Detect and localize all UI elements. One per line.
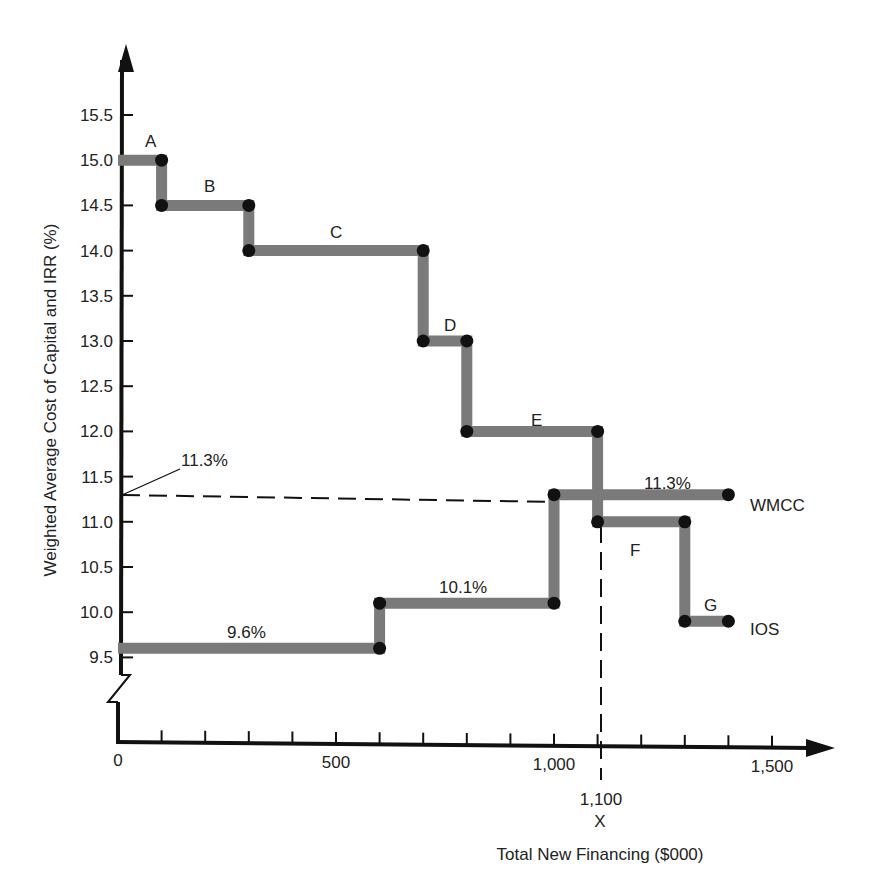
ios-step-dot (591, 425, 604, 438)
y-tick-label: 13.0 (80, 332, 113, 351)
series-layer (118, 160, 728, 648)
wmcc-seg-label-3: 11.3% (644, 474, 691, 493)
ios-seg-label-a: A (145, 132, 157, 151)
y-tick-label: 14.5 (80, 196, 113, 215)
ios-step-dot (417, 335, 430, 348)
y-tick-label: 10.5 (80, 558, 113, 577)
wmcc-step-dot (548, 597, 561, 610)
wmcc-seg-label-1: 9.6% (227, 623, 266, 642)
y-axis-ticks: 15.515.014.514.013.513.012.512.011.511.0… (80, 106, 133, 667)
ios-seg-label-d: D (444, 316, 456, 335)
chart: 15.515.014.514.013.513.012.512.011.511.0… (0, 0, 869, 891)
x-axis-title: Total New Financing ($000) (497, 845, 704, 864)
wmcc-step-dot (373, 642, 386, 655)
x-tick-label: 500 (322, 753, 350, 772)
y-tick-label: 10.0 (80, 603, 113, 622)
ios-seg-label-b: B (204, 177, 215, 196)
ios-step-dot (460, 335, 473, 348)
wmcc-seg-label-2: 10.1% (439, 578, 487, 597)
wmcc-step-dot (548, 488, 561, 501)
x-axis-ticks: 05001,0001,500 (113, 730, 793, 775)
callout-label: 11.3% (181, 451, 228, 470)
y-axis-title: Weighted Average Cost of Capital and IRR… (41, 224, 60, 577)
x-tick-label: 1,500 (751, 757, 794, 776)
y-tick-label: 15.5 (80, 106, 113, 125)
y-tick-label: 11.0 (81, 513, 113, 532)
x-marker-symbol: X (594, 812, 605, 831)
y-tick-label: 11.5 (81, 468, 113, 487)
ios-seg-label-e: E (531, 411, 542, 430)
wmcc-series-label: WMCC (750, 496, 805, 515)
wmcc-step-dot (373, 597, 386, 610)
ios-seg-label-f: F (630, 541, 640, 560)
y-tick-label: 12.0 (80, 422, 113, 441)
ios-step-dot (460, 425, 473, 438)
ios-step-dot (678, 615, 691, 628)
axis-break-icon (108, 675, 130, 702)
ios-seg-label-g: G (704, 596, 717, 615)
ios-step-dot (722, 615, 735, 628)
x-axis-line (116, 742, 810, 748)
ios-seg-label-c: C (330, 223, 342, 242)
ios-step-dot (591, 515, 604, 528)
x-tick-label: 1,000 (533, 755, 576, 774)
wmcc-11.3-dashed-line (122, 495, 557, 502)
ios-step-dot (155, 154, 168, 167)
x-marker-value: 1,100 (580, 790, 623, 809)
ios-step-dot (242, 244, 255, 257)
ios-series-label: IOS (750, 620, 779, 639)
y-tick-label: 13.5 (80, 287, 113, 306)
ios-step-dot (678, 515, 691, 528)
y-tick-label: 15.0 (80, 151, 113, 170)
y-tick-label: 14.0 (80, 242, 113, 261)
y-tick-label: 12.5 (80, 377, 113, 396)
ios-step-dot (155, 199, 168, 212)
x-tick-label: 0 (113, 751, 122, 770)
ios-step-dot (242, 199, 255, 212)
ios-step-dot (417, 244, 430, 257)
wmcc-step-dot (722, 488, 735, 501)
x-axis-arrow-icon (806, 739, 835, 757)
y-tick-label: 9.5 (89, 648, 113, 667)
callout-leader-line (122, 469, 180, 495)
y-axis-line (121, 60, 122, 675)
y-axis-arrow-icon (118, 44, 134, 72)
